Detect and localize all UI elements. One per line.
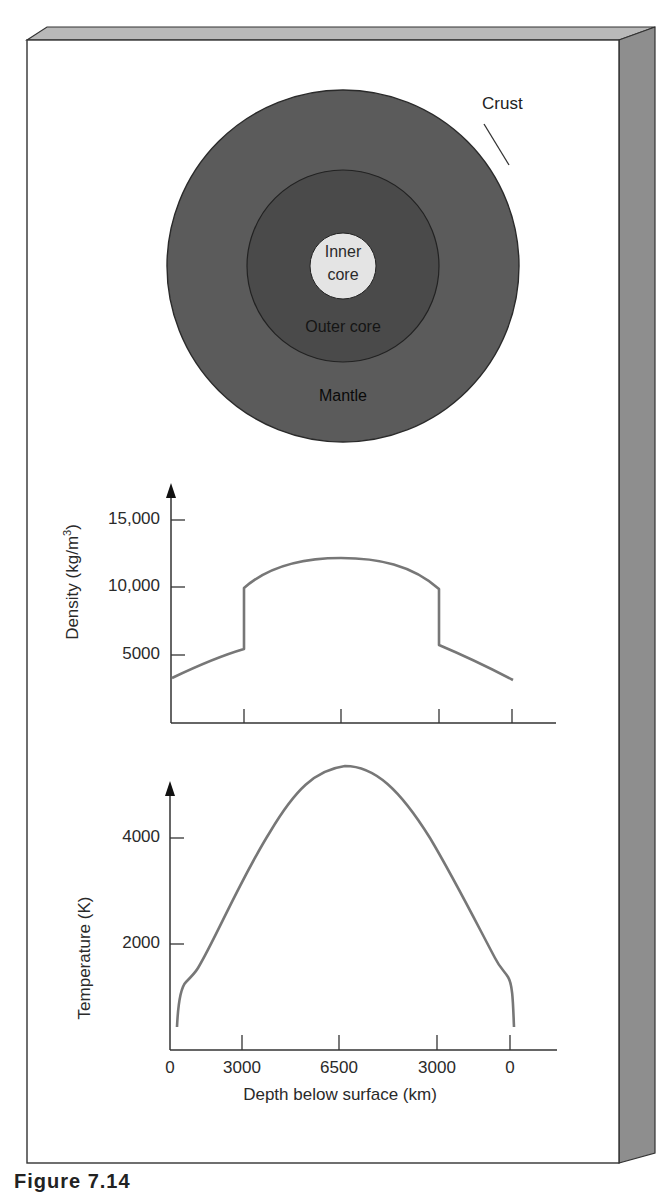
panel-right-bevel [619,27,655,1163]
figure-caption-number: Figure 7.14 [14,1170,131,1192]
density-y-label: Density (kg/m3) [61,524,83,640]
temperature-ytick-4000: 4000 [100,827,160,847]
xtick-3000-right: 3000 [407,1058,467,1078]
temperature-y-label: Temperature (K) [75,897,95,1020]
density-y-label-close: ) [63,524,82,530]
mantle-label: Mantle [300,387,386,405]
xtick-0-left: 0 [158,1058,182,1078]
inner-core-label-line2: core [320,266,366,284]
outer-core-label: Outer core [290,318,396,336]
temperature-ytick-2000: 2000 [100,933,160,953]
xtick-0-right: 0 [498,1058,522,1078]
xtick-6500: 6500 [309,1058,369,1078]
density-y-label-sup: 3 [61,530,73,536]
panel-top-bevel [27,27,655,40]
xtick-3000-left: 3000 [212,1058,272,1078]
x-axis-label: Depth below surface (km) [210,1085,470,1105]
crust-label: Crust [482,94,523,114]
inner-core-label-line1: Inner [320,243,366,261]
figure-caption: Figure 7.14 [14,1170,131,1193]
density-ytick-15000: 15,000 [94,509,160,529]
density-y-label-text: Density (kg/m [63,536,82,640]
density-ytick-5000: 5000 [94,644,160,664]
density-ytick-10000: 10,000 [94,576,160,596]
